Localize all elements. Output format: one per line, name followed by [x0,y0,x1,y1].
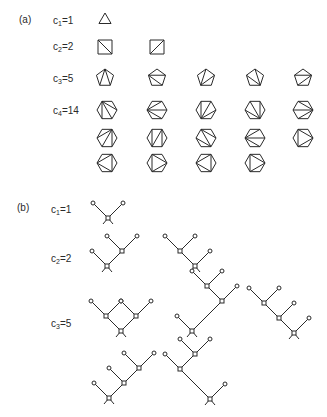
triangulated-polygon [97,101,117,118]
triangulated-polygon [245,154,265,171]
binary-tree [92,351,156,404]
triangulated-polygon [97,129,117,146]
triangulated-polygon [293,101,313,118]
catalan-figure [0,0,327,417]
binary-tree [91,201,125,224]
triangulated-polygon [147,129,167,146]
triangulated-polygon [148,69,165,85]
binary-tree [90,234,139,272]
binary-trees [89,201,311,405]
triangulated-polygon [245,101,265,118]
binary-tree [89,299,153,337]
triangulated-polygon [150,40,164,54]
binary-tree [163,234,212,272]
triangulated-polygon [196,101,216,118]
triangulated-polygon [147,101,167,118]
triangulated-polygon [196,129,216,146]
binary-tree [175,269,239,337]
triangulated-polygon [96,69,113,85]
triangulated-polygon [197,69,214,85]
triangulated-polygon [97,154,117,171]
triangulated-polygon [293,129,313,146]
polygon-triangulations [96,13,313,172]
triangulated-polygon [196,154,216,171]
triangulated-polygon [246,69,263,85]
triangulated-polygon [294,69,311,85]
binary-tree [247,286,311,339]
triangulated-polygon [98,40,112,54]
triangulated-polygon [245,129,265,146]
binary-tree [163,337,227,405]
triangulated-polygon [147,154,167,171]
triangulated-polygon [99,13,111,24]
